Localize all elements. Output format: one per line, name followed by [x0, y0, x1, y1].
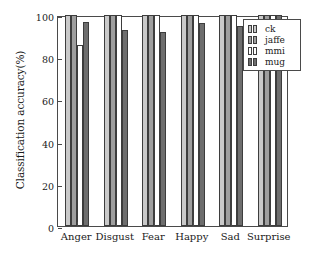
bar-group	[97, 17, 136, 226]
legend-swatch-group	[248, 58, 257, 66]
y-axis-tick-label: 40	[32, 138, 54, 149]
legend-label: jaffe	[260, 35, 285, 45]
x-axis-tick-label: Anger	[61, 231, 92, 242]
y-axis-tick-mark	[58, 17, 62, 18]
legend-item: mmi	[248, 45, 296, 56]
y-axis-tick-label: 100	[32, 12, 54, 23]
legend: ckjaffemmimug	[243, 19, 301, 71]
legend-swatch-group	[248, 25, 257, 33]
legend-item: ck	[248, 23, 296, 34]
x-axis-tick-mark	[116, 222, 117, 226]
bar	[199, 23, 205, 226]
y-axis-tick-mark	[58, 186, 62, 187]
x-axis-tick-mark	[231, 222, 232, 226]
legend-color-swatch	[248, 58, 252, 66]
x-axis-tick-mark	[193, 222, 194, 226]
legend-color-swatch	[253, 36, 257, 44]
y-axis-tick-label: 20	[32, 180, 54, 191]
legend-color-swatch	[253, 25, 257, 33]
bar-group	[58, 17, 97, 226]
bar-group	[174, 17, 213, 226]
legend-item: jaffe	[248, 34, 296, 45]
bar-group-bars	[58, 17, 97, 226]
bar	[122, 30, 128, 226]
legend-label: mmi	[260, 46, 285, 56]
x-axis-tick-mark	[154, 222, 155, 226]
legend-color-swatch	[253, 58, 257, 66]
x-axis-tick-mark	[270, 222, 271, 226]
y-axis-tick-label: 80	[32, 54, 54, 65]
legend-item: mug	[248, 56, 296, 67]
x-axis-tick-label: Fear	[142, 231, 165, 242]
legend-label: ck	[260, 24, 276, 34]
legend-color-swatch	[248, 25, 252, 33]
y-axis-tick-mark	[58, 228, 62, 229]
x-axis-tick-mark	[77, 222, 78, 226]
y-axis-tick-label: 60	[32, 96, 54, 107]
x-axis-tick-label: Sad	[221, 231, 240, 242]
bar-group	[135, 17, 174, 226]
bar-chart-figure: Classification accuracy(%) 020406080100 …	[0, 0, 309, 259]
bar-group-bars	[174, 17, 213, 226]
bar	[83, 22, 89, 226]
bar	[160, 32, 166, 226]
x-axis-tick-label: Happy	[175, 231, 208, 242]
legend-swatch-group	[248, 36, 257, 44]
bar-group-bars	[135, 17, 174, 226]
x-axis-tick-label: Surprise	[247, 231, 291, 242]
y-axis-tick-mark	[58, 59, 62, 60]
legend-color-swatch	[253, 47, 257, 55]
legend-color-swatch	[248, 47, 252, 55]
legend-label: mug	[260, 57, 285, 67]
y-axis-tick-label: 0	[32, 223, 54, 234]
legend-swatch-group	[248, 47, 257, 55]
y-axis-tick-mark	[58, 101, 62, 102]
x-axis-tick-label: Disgust	[96, 231, 134, 242]
legend-color-swatch	[248, 36, 252, 44]
bar-group-bars	[97, 17, 136, 226]
y-axis-title: Classification accuracy(%)	[14, 5, 28, 235]
y-axis-tick-mark	[58, 144, 62, 145]
